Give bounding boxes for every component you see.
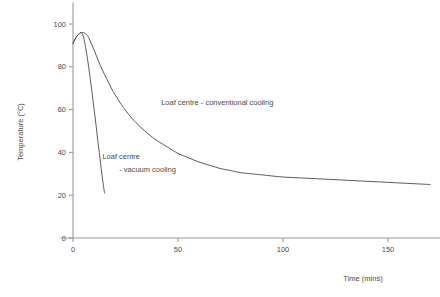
- y-axis: 020406080100: [53, 3, 73, 243]
- x-axis-ticks: 050100150: [71, 238, 394, 254]
- x-tick-label: 150: [382, 245, 395, 254]
- vacuum-cooling-label-line2: - vacuum cooling: [119, 165, 176, 174]
- series-line: [73, 32, 105, 193]
- series-line: [73, 32, 430, 184]
- conventional-cooling-label: Loaf centre - conventional cooling: [161, 98, 273, 107]
- y-tick-label: 80: [58, 62, 66, 71]
- chart-annotations: Loaf centre - conventional coolingLoaf c…: [102, 98, 273, 173]
- y-tick-label: 100: [53, 20, 66, 29]
- x-axis-title: Time (mins): [343, 274, 383, 283]
- x-axis: 050100150: [60, 238, 440, 254]
- y-tick-label: 40: [58, 148, 66, 157]
- y-tick-label: 60: [58, 105, 66, 114]
- cooling-curve-chart: 020406080100 050100150 Loaf centre - con…: [0, 0, 440, 297]
- x-tick-label: 0: [71, 245, 75, 254]
- x-tick-label: 100: [277, 245, 290, 254]
- x-tick-label: 50: [174, 245, 182, 254]
- chart-container: 020406080100 050100150 Loaf centre - con…: [0, 0, 440, 297]
- y-axis-ticks: 020406080100: [53, 20, 73, 243]
- y-tick-label: 20: [58, 191, 66, 200]
- vacuum-cooling-label-line1: Loaf centre: [102, 152, 140, 161]
- y-axis-title: Temperature (°C): [16, 103, 25, 161]
